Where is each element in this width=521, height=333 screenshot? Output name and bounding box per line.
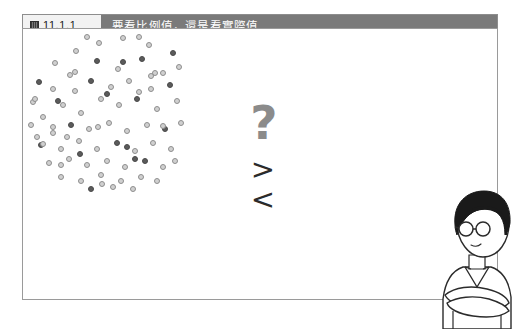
- comparison-symbols: ? > <: [241, 105, 291, 225]
- dish-dot: [132, 148, 138, 154]
- sparse-dish: [23, 194, 183, 333]
- dish-dot: [98, 172, 104, 178]
- dish-dot: [50, 124, 56, 130]
- dish-dot: [88, 186, 94, 192]
- dish-dot: [104, 158, 110, 164]
- dish-dot: [174, 98, 180, 104]
- dish-dot: [64, 134, 70, 140]
- dish-dot: [136, 89, 142, 95]
- dish-dot: [170, 50, 176, 56]
- dish-dot: [60, 102, 66, 108]
- dish-dot: [139, 56, 145, 62]
- dish-dot: [118, 178, 124, 184]
- dish-dot: [46, 160, 52, 166]
- question-mark-symbol: ?: [241, 99, 287, 146]
- dish-dot: [96, 40, 102, 46]
- dish-dot: [86, 126, 92, 132]
- dish-dot: [176, 64, 182, 70]
- dish-dot: [99, 181, 105, 187]
- dish-dot: [110, 184, 116, 190]
- dish-dot: [98, 96, 104, 102]
- dish-dot: [34, 134, 40, 140]
- dish-dot: [94, 146, 100, 152]
- dish-dot: [40, 141, 46, 147]
- dish-dot: [142, 158, 148, 164]
- dish-dot: [138, 174, 144, 180]
- dish-dot: [68, 122, 74, 128]
- less-than-symbol: <: [243, 185, 283, 214]
- dish-dot: [150, 140, 156, 146]
- dish-dot: [172, 158, 178, 164]
- thinking-person-illustration: [441, 189, 521, 329]
- dish-dot: [154, 178, 160, 184]
- dish-dot: [36, 79, 42, 85]
- dish-dot: [108, 84, 114, 90]
- dish-dot: [124, 128, 130, 134]
- dish-dot: [58, 174, 64, 180]
- dish-dot: [50, 86, 56, 92]
- dish-dot: [77, 151, 83, 157]
- dish-dot: [88, 78, 94, 84]
- dish-dot: [84, 162, 90, 168]
- dish-dot: [134, 96, 140, 102]
- dish-dot: [132, 156, 138, 162]
- dish-dot: [72, 88, 78, 94]
- dish-dot: [116, 102, 122, 108]
- dish-dot: [84, 34, 90, 40]
- dish-dot: [122, 164, 128, 170]
- dish-dot: [146, 42, 152, 48]
- figure-frame: ? > <: [22, 28, 498, 300]
- dish-dot: [114, 140, 120, 146]
- dish-dot: [168, 146, 174, 152]
- dish-dot: [148, 86, 154, 92]
- dish-dot: [160, 70, 166, 76]
- dish-dot: [160, 164, 166, 170]
- dish-dot: [148, 73, 154, 79]
- dish-dot: [40, 114, 46, 120]
- dish-dot: [76, 138, 82, 144]
- person-svg: [441, 189, 521, 329]
- dish-dot: [72, 69, 78, 75]
- dish-dot: [73, 48, 79, 54]
- dish-dot: [78, 110, 84, 116]
- dense-dish: [23, 29, 188, 194]
- dish-dot: [55, 98, 61, 104]
- dish-dot: [50, 130, 56, 136]
- dish-dot: [66, 156, 72, 162]
- dish-dot: [52, 60, 58, 66]
- dish-dot: [160, 123, 166, 129]
- dish-dot: [130, 186, 136, 192]
- dish-dot: [95, 124, 101, 130]
- dish-dot: [154, 106, 160, 112]
- dish-dot: [58, 162, 64, 168]
- dish-dot: [126, 78, 132, 84]
- dish-dot: [144, 122, 150, 128]
- dish-dot: [136, 34, 142, 40]
- dish-dot: [120, 59, 126, 65]
- greater-than-symbol: >: [243, 155, 283, 184]
- dish-dot: [104, 91, 110, 97]
- dish-dot: [124, 144, 130, 150]
- dish-dot: [58, 146, 64, 152]
- dish-dot: [115, 66, 121, 72]
- dish-dot: [32, 96, 38, 102]
- dish-dot: [94, 58, 100, 64]
- dish-dot: [78, 178, 84, 184]
- dish-dot: [178, 120, 184, 126]
- dish-dot: [120, 35, 126, 41]
- dish-dot: [167, 82, 173, 88]
- dish-dot: [106, 120, 112, 126]
- dish-dot: [28, 122, 34, 128]
